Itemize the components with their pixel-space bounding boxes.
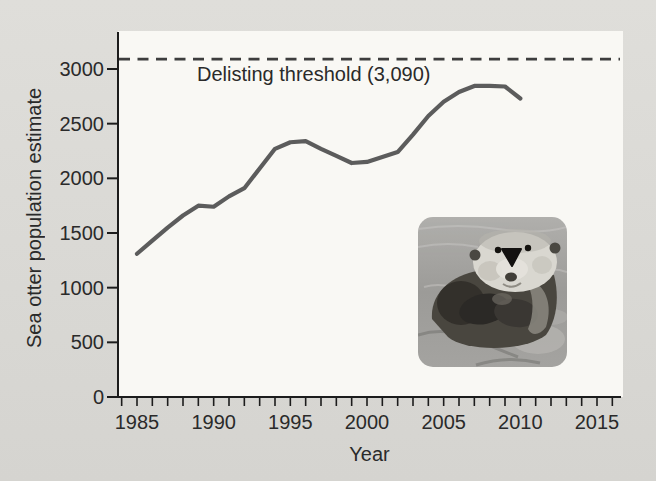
threshold-label: Delisting threshold (3,090) <box>197 63 430 86</box>
x-axis-title: Year <box>118 443 621 466</box>
otter-eye <box>525 245 531 251</box>
y-tick-label: 2000 <box>60 167 105 189</box>
x-tick-label: 2000 <box>345 411 390 433</box>
x-tick-label: 1985 <box>115 411 160 433</box>
x-tick-label: 2010 <box>498 411 543 433</box>
y-tick-label: 3000 <box>60 58 105 80</box>
y-tick-label: 1000 <box>60 277 105 299</box>
y-axis-title: Sea otter population estimate <box>20 45 48 390</box>
x-tick-label: 1990 <box>191 411 236 433</box>
x-tick-label: 1995 <box>268 411 313 433</box>
x-tick-label: 2005 <box>421 411 466 433</box>
otter-ear <box>550 243 561 254</box>
y-tick-label: 1500 <box>60 222 105 244</box>
otter-eye <box>495 247 501 253</box>
otter-ear <box>470 250 481 261</box>
figure-background: 0500100015002000250030001985199019952000… <box>0 0 656 481</box>
sea-otter-photo <box>418 217 567 367</box>
y-tick-label: 500 <box>71 331 104 353</box>
y-tick-label: 2500 <box>60 113 105 135</box>
x-tick-label: 2015 <box>575 411 620 433</box>
y-tick-label: 0 <box>93 386 104 408</box>
otter-mouth <box>505 273 517 282</box>
